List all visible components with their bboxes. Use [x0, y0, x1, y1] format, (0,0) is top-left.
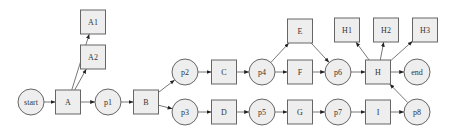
edge-H-to-H3	[391, 41, 413, 61]
edge-p4-to-E	[271, 43, 289, 62]
node-H1: H1	[335, 18, 360, 42]
node-label: H3	[420, 26, 430, 35]
node-H: H	[366, 60, 391, 84]
node-H3: H3	[413, 18, 438, 42]
node-E: E	[288, 19, 313, 43]
node-label: C	[221, 68, 226, 77]
node-p1: p1	[95, 89, 121, 115]
node-H2: H2	[374, 18, 399, 42]
node-start: start	[18, 89, 44, 115]
node-label: start	[24, 98, 39, 107]
edge-H-to-H1	[356, 42, 369, 60]
node-label: p2	[181, 68, 189, 77]
edge-A-to-A2	[75, 69, 87, 90]
node-label: end	[411, 68, 423, 77]
edge-E-to-p6	[311, 43, 329, 62]
process-diagram: startAA1A2p1Bp2p3CDp4p5EFGp6p7H1H2H3HIen…	[0, 0, 451, 135]
nodes-layer: startAA1A2p1Bp2p3CDp4p5EFGp6p7H1H2H3HIen…	[18, 10, 438, 125]
node-label: p6	[334, 68, 342, 77]
node-label: H	[375, 68, 381, 77]
node-A: A	[56, 90, 81, 114]
node-C: C	[212, 60, 237, 84]
node-label: F	[298, 68, 303, 77]
edge-B-to-p2	[159, 80, 175, 92]
node-label: H1	[342, 26, 352, 35]
node-p6: p6	[325, 59, 351, 85]
node-label: G	[297, 108, 303, 117]
edge-p8-to-H	[390, 84, 408, 103]
node-label: B	[143, 98, 148, 107]
node-label: p7	[334, 108, 342, 117]
node-p4: p4	[249, 59, 275, 85]
node-D: D	[212, 100, 237, 124]
node-F: F	[288, 60, 313, 84]
node-label: A2	[88, 53, 98, 62]
node-label: A	[65, 98, 71, 107]
node-label: H2	[381, 26, 391, 35]
node-G: G	[288, 100, 313, 124]
node-label: p1	[104, 98, 112, 107]
node-A2: A2	[81, 45, 106, 69]
node-label: p4	[258, 68, 266, 77]
node-p7: p7	[325, 99, 351, 125]
edge-B-to-p3	[159, 105, 173, 109]
node-p3: p3	[172, 99, 198, 125]
node-label: A1	[88, 18, 98, 27]
node-I: I	[366, 100, 391, 124]
node-A1: A1	[81, 10, 106, 34]
node-label: D	[221, 108, 227, 117]
edge-H-to-H2	[380, 42, 383, 60]
node-B: B	[134, 90, 159, 114]
node-p8: p8	[404, 99, 430, 125]
node-label: p8	[413, 108, 421, 117]
node-label: p5	[258, 108, 266, 117]
node-end: end	[404, 59, 430, 85]
node-label: p3	[181, 108, 189, 117]
node-p5: p5	[249, 99, 275, 125]
node-label: I	[377, 108, 380, 117]
node-label: E	[298, 27, 303, 36]
node-p2: p2	[172, 59, 198, 85]
